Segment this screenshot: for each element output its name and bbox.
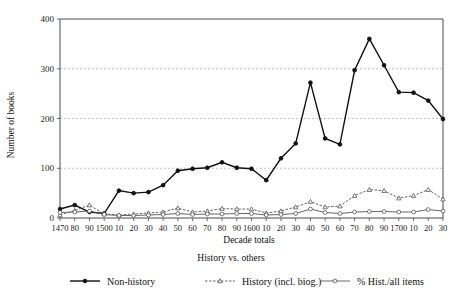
data-point	[161, 183, 165, 187]
data-point	[191, 167, 195, 171]
x-tick-label: 30	[291, 223, 300, 233]
data-point	[441, 209, 445, 213]
data-point	[58, 211, 62, 215]
data-point	[279, 213, 283, 217]
data-point	[250, 167, 254, 171]
data-point	[397, 90, 401, 94]
x-tick-label: 10	[262, 223, 271, 233]
data-point	[176, 212, 180, 216]
data-point	[353, 210, 357, 214]
legend-label: History (incl. biog.)	[242, 276, 321, 288]
data-point	[220, 206, 224, 210]
x-tick-label: 1600	[243, 223, 260, 233]
data-point	[441, 197, 445, 201]
data-point	[426, 99, 430, 103]
data-point	[235, 166, 239, 170]
data-point	[309, 207, 313, 211]
data-point	[338, 204, 342, 208]
data-point	[333, 279, 337, 283]
data-point	[220, 212, 224, 216]
data-point	[323, 211, 327, 215]
data-point	[367, 210, 371, 214]
data-point	[382, 210, 386, 214]
x-axis-title: Decade totals	[223, 235, 275, 245]
legend-label: Non-history	[107, 276, 155, 287]
data-point	[397, 196, 401, 200]
y-tick-label: 100	[41, 163, 55, 173]
series-layer	[58, 37, 445, 217]
legend-item-1[interactable]: Non-history	[70, 276, 155, 287]
data-point	[235, 212, 239, 216]
data-point	[218, 279, 222, 283]
data-point	[235, 207, 239, 211]
data-point	[205, 212, 209, 216]
data-point	[294, 212, 298, 216]
x-tick-label: 80	[70, 223, 79, 233]
data-point	[338, 142, 342, 146]
data-point	[87, 203, 91, 207]
data-point	[412, 91, 416, 95]
data-point	[146, 190, 150, 194]
data-point	[294, 141, 298, 145]
x-tick-label: 20	[129, 223, 138, 233]
data-point	[353, 68, 357, 72]
y-axis-title: Number of books	[6, 91, 16, 158]
data-point	[146, 213, 150, 217]
chart-subtitle: History vs. others	[197, 253, 265, 263]
x-tick-label: 10	[115, 223, 124, 233]
data-point	[382, 188, 386, 192]
x-tick-label: 50	[321, 223, 330, 233]
x-tick-label: 60	[188, 223, 197, 233]
data-point	[220, 160, 224, 164]
x-tick-label: 90	[85, 223, 94, 233]
y-tick-label: 300	[41, 64, 55, 74]
legend-item-3[interactable]: % Hist./all items	[320, 276, 424, 287]
data-point	[309, 81, 313, 85]
data-point	[264, 213, 268, 217]
data-point	[88, 209, 92, 213]
data-point	[338, 212, 342, 216]
data-point	[176, 206, 180, 210]
x-tick-label: 1500	[96, 223, 113, 233]
x-tick-label: 1470	[52, 223, 69, 233]
data-point	[191, 213, 195, 217]
x-tick-label: 90	[380, 223, 389, 233]
data-point	[117, 189, 121, 193]
x-tick-label: 40	[159, 223, 168, 233]
x-tick-label: 60	[336, 223, 345, 233]
data-point	[367, 187, 371, 191]
data-point	[73, 210, 77, 214]
chart-canvas: 0100200300400 14708090150010203040506070…	[0, 0, 462, 300]
legend-label: % Hist./all items	[357, 276, 424, 287]
data-point	[250, 212, 254, 216]
x-tick-label: 30	[439, 223, 448, 233]
x-tick-label: 20	[277, 223, 286, 233]
data-point	[83, 279, 87, 283]
data-point	[323, 205, 327, 209]
data-point	[367, 37, 371, 41]
data-point	[132, 191, 136, 195]
x-tick-label: 1700	[390, 223, 407, 233]
x-tick-label: 40	[306, 223, 315, 233]
x-tick-label: 30	[144, 223, 153, 233]
data-point	[73, 203, 77, 207]
legend-item-2[interactable]: History (incl. biog.)	[205, 276, 321, 288]
x-axis-tick-labels: 1470809015001020304050607080901600102030…	[52, 218, 448, 233]
x-tick-label: 70	[203, 223, 212, 233]
data-point	[397, 210, 401, 214]
data-point	[352, 193, 356, 197]
x-tick-label: 90	[233, 223, 242, 233]
x-tick-label: 80	[218, 223, 227, 233]
data-point	[205, 166, 209, 170]
y-tick-label: 400	[41, 14, 55, 24]
x-tick-label: 10	[409, 223, 418, 233]
data-point	[132, 214, 136, 218]
data-point	[382, 63, 386, 67]
y-axis-tick-labels: 0100200300400	[41, 14, 61, 223]
data-point	[308, 199, 312, 203]
data-point	[249, 207, 253, 211]
x-tick-label: 20	[424, 223, 433, 233]
data-point	[264, 178, 268, 182]
data-point	[117, 214, 121, 218]
data-point	[412, 210, 416, 214]
